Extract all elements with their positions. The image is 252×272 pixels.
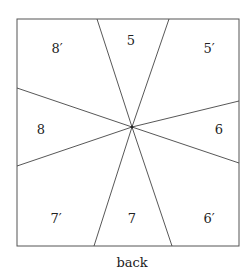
label-top-right: 5′: [203, 42, 214, 55]
label-bottom-right: 6′: [203, 212, 214, 225]
label-top: 5: [127, 34, 135, 47]
line-top-right-to-center: [132, 19, 169, 127]
center-point: [131, 126, 134, 129]
label-top-left: 8′: [51, 42, 62, 55]
label-bottom: 7: [128, 212, 136, 225]
line-bottom-left-to-center: [94, 127, 132, 246]
label-bottom-left: 7′: [50, 212, 61, 225]
line-bottom-right-to-center: [132, 127, 172, 246]
diagram-caption: back: [116, 256, 147, 269]
line-left-upper-to-center: [17, 88, 132, 127]
label-left: 8: [37, 123, 45, 136]
label-right: 6: [215, 123, 223, 136]
line-left-lower-to-center: [17, 127, 132, 166]
